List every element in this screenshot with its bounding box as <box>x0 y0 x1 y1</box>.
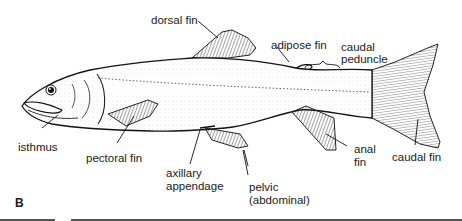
label-anal-fin-line1: anal <box>354 143 376 155</box>
label-pectoral-fin: pectoral fin <box>86 152 142 164</box>
label-anal-fin-line2: fin <box>354 156 366 168</box>
fish-anatomy-diagram: dorsal fin adipose fin caudal peduncle i… <box>0 0 462 221</box>
label-axillary-appendage-line2: appendage <box>166 180 224 192</box>
label-pelvic-line1: pelvic <box>249 181 278 193</box>
bottom-rule-right <box>71 219 462 221</box>
panel-letter: B <box>15 196 24 210</box>
label-caudal-peduncle-line1: caudal <box>341 41 375 53</box>
bottom-rule-left <box>0 219 55 221</box>
label-axillary-appendage-line1: axillary <box>166 167 202 179</box>
fish-illustration <box>0 0 462 221</box>
label-dorsal-fin: dorsal fin <box>151 14 198 26</box>
label-caudal-peduncle-line2: peduncle <box>341 53 388 65</box>
label-pelvic-line2: (abdominal) <box>249 194 310 206</box>
label-caudal-fin: caudal fin <box>392 151 441 163</box>
label-adipose-fin: adipose fin <box>271 39 327 51</box>
label-isthmus: isthmus <box>18 141 58 153</box>
